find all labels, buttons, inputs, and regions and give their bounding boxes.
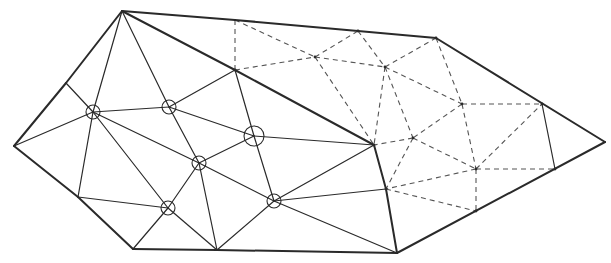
mesh-edge — [66, 83, 93, 112]
mesh-edge — [254, 136, 374, 145]
dashed-edge — [385, 67, 462, 104]
boundary-edge — [358, 31, 436, 38]
dashed-edge — [315, 57, 385, 67]
vertex-dot — [412, 137, 415, 140]
mesh-edge — [542, 104, 555, 169]
solid-edges — [14, 11, 555, 253]
vertex-dot — [385, 188, 388, 191]
boundary-edge — [374, 145, 386, 189]
boundary-edge — [217, 250, 397, 253]
boundary-edge — [122, 11, 235, 70]
boundary-edge — [122, 11, 235, 20]
vertex-dot — [541, 103, 544, 106]
boundary-edge — [14, 83, 66, 146]
mesh-edge — [14, 112, 93, 146]
dashed-edge — [385, 38, 436, 67]
boundary-edge — [78, 197, 133, 249]
mesh-edge — [199, 163, 274, 201]
mesh-edge — [199, 136, 254, 163]
boundary-edge — [133, 249, 217, 250]
dashed-edge — [476, 104, 542, 169]
mesh-edge — [93, 107, 169, 112]
vertex-dot — [357, 30, 360, 33]
dashed-edges — [235, 20, 555, 211]
dashed-edge — [413, 104, 462, 138]
mesh-edge — [93, 11, 122, 112]
dashed-edge — [385, 67, 413, 138]
dashed-edge — [413, 138, 476, 169]
vertex-dot — [475, 210, 478, 213]
mesh-edge — [93, 112, 168, 208]
mesh-edge — [217, 201, 274, 250]
dashed-edge — [374, 67, 385, 145]
vertex-dot — [554, 168, 557, 171]
boundary-edge — [436, 38, 605, 142]
vertex-dot — [234, 69, 237, 72]
mesh-edge — [274, 189, 386, 201]
dashed-edge — [315, 57, 374, 145]
mesh-edge — [78, 112, 93, 197]
dashed-edge — [386, 189, 476, 211]
boundary-edges — [14, 11, 605, 253]
vertex-dot — [314, 56, 317, 59]
dashed-edge — [358, 31, 385, 67]
mesh-edge — [93, 112, 199, 163]
mesh-edge — [133, 208, 168, 249]
dashed-edge — [235, 57, 315, 70]
dashed-edge — [386, 138, 413, 189]
boundary-edge — [235, 20, 358, 31]
dashed-edge — [436, 38, 462, 104]
dashed-edge — [315, 31, 358, 57]
boundary-edge — [14, 146, 78, 197]
mesh-edge — [169, 70, 235, 107]
dashed-edge — [462, 104, 476, 169]
boundary-edge — [66, 11, 122, 83]
mesh-edge — [78, 197, 168, 208]
vertex-dot — [384, 66, 387, 69]
vertex-dot — [461, 103, 464, 106]
circled-nodes — [86, 30, 556, 215]
boundary-edge — [397, 142, 605, 253]
mesh-edge — [122, 11, 169, 107]
boundary-edge — [386, 189, 397, 253]
mesh-edge — [274, 201, 397, 253]
dashed-edge — [374, 138, 413, 145]
mesh-edge — [168, 163, 199, 208]
vertex-dot — [435, 37, 438, 40]
dashed-edge — [386, 169, 476, 189]
vertex-dot — [475, 168, 478, 171]
vertex-dot — [373, 144, 376, 147]
mesh-diagram — [0, 0, 611, 263]
mesh-edge — [274, 145, 374, 201]
boundary-edge — [235, 70, 374, 145]
